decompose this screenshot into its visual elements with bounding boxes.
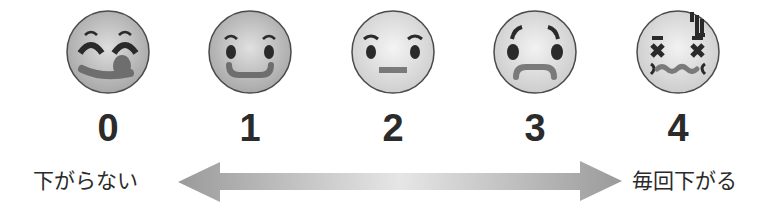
scale-value-0: 0	[78, 108, 138, 148]
distressed-face-icon	[635, 9, 721, 95]
scale-value-4: 4	[648, 108, 708, 148]
neutral-face-icon	[350, 9, 436, 95]
scale-value-3: 3	[505, 108, 565, 148]
face-3-worried	[492, 9, 578, 95]
worried-face-icon	[492, 9, 578, 95]
face-4-distressed	[635, 9, 721, 95]
face-2-neutral	[350, 9, 436, 95]
smiling-face-icon	[207, 9, 293, 95]
left-label-never: 下がらない	[33, 166, 138, 196]
tongue-out-face-icon	[65, 9, 151, 95]
double-headed-arrow	[178, 161, 622, 202]
face-0-tongue-out	[65, 9, 151, 95]
scale-value-2: 2	[363, 108, 423, 148]
scale-value-1: 1	[220, 108, 280, 148]
face-1-smiling	[207, 9, 293, 95]
right-label-every-time: 毎回下がる	[632, 166, 737, 196]
